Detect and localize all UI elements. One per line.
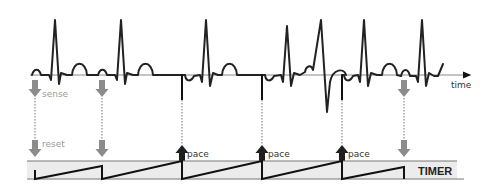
event-guide-lines — [35, 98, 404, 145]
sense-arrow-icon — [398, 80, 411, 97]
timer-label: TIMER — [418, 165, 452, 177]
reset-label: reset — [42, 139, 65, 149]
reset-arrow-icon — [96, 140, 109, 157]
pace-arrow-icon — [256, 145, 269, 162]
reset-arrow-icon — [398, 140, 411, 157]
pace-arrow-icon — [336, 145, 349, 162]
sense-arrow-icon — [96, 80, 109, 97]
ecg-trace — [32, 20, 443, 112]
pacemaker-timing-diagram: time sense — [0, 0, 491, 191]
sense-arrow-icon — [29, 80, 42, 97]
reset-arrow-icon — [29, 140, 42, 157]
pace-label: pace — [348, 149, 370, 159]
pace-label: pace — [187, 149, 209, 159]
pace-label: pace — [268, 149, 290, 159]
sense-label: sense — [42, 89, 69, 99]
sense-arrows — [29, 80, 411, 97]
time-axis-label: time — [451, 80, 472, 90]
pacing-spikes — [182, 75, 342, 100]
